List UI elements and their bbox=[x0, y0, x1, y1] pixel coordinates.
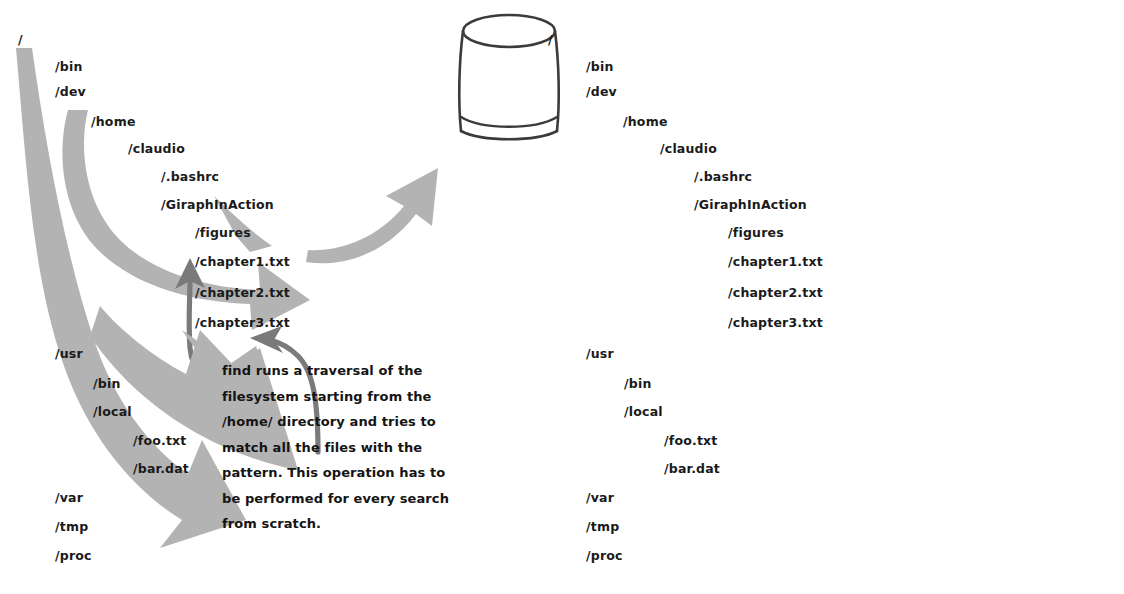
locate-traversal-panel: //bin/dev/home/claudio/.bashrc/GiraphInA… bbox=[540, 0, 1124, 594]
tree-node: /chapter1.txt bbox=[728, 256, 823, 269]
tree-node: /chapter2.txt bbox=[195, 287, 290, 300]
tree-node: /bin bbox=[93, 378, 121, 391]
tree-node: /proc bbox=[55, 550, 92, 563]
tree-node: /local bbox=[93, 406, 132, 419]
tree-node: /foo.txt bbox=[664, 435, 718, 448]
tree-node: /usr bbox=[586, 348, 614, 361]
tree-node: / bbox=[18, 34, 23, 47]
tree-node: /proc bbox=[586, 550, 623, 563]
tree-node: /GiraphInAction bbox=[694, 199, 807, 212]
tree-node: /bar.dat bbox=[133, 463, 189, 476]
tree-node: /bin bbox=[624, 378, 652, 391]
tree-node: /chapter3.txt bbox=[195, 317, 290, 330]
tree-node: /claudio bbox=[660, 143, 717, 156]
tree-node: /foo.txt bbox=[133, 435, 187, 448]
tree-node: /tmp bbox=[55, 521, 88, 534]
tree-node: /var bbox=[586, 492, 614, 505]
figure-canvas: //bin/dev/home/claudio/.bashrc/GiraphInA… bbox=[0, 0, 1124, 594]
tree-node: /chapter2.txt bbox=[728, 287, 823, 300]
tree-node: /dev bbox=[586, 86, 617, 99]
tree-node: /bin bbox=[55, 61, 83, 74]
tree-node: /bar.dat bbox=[664, 463, 720, 476]
tree-node: /figures bbox=[728, 227, 784, 240]
tree-node: /bin bbox=[586, 61, 614, 74]
tree-node: /chapter1.txt bbox=[195, 256, 290, 269]
tree-node: /claudio bbox=[128, 143, 185, 156]
tree-node: /figures bbox=[195, 227, 251, 240]
find-caption: find runs a traversal of the filesystem … bbox=[222, 358, 522, 537]
tree-node: /local bbox=[624, 406, 663, 419]
tree-node: /usr bbox=[55, 348, 83, 361]
tree-node: /home bbox=[91, 116, 136, 129]
tree-node: /tmp bbox=[586, 521, 619, 534]
tree-node: /.bashrc bbox=[694, 171, 752, 184]
tree-node: / bbox=[548, 34, 553, 47]
tree-node: /dev bbox=[55, 86, 86, 99]
tree-node: /var bbox=[55, 492, 83, 505]
tree-node: /chapter3.txt bbox=[728, 317, 823, 330]
database-cylinder-icon bbox=[459, 15, 558, 139]
tree-node: /.bashrc bbox=[161, 171, 219, 184]
tree-node: /GiraphInAction bbox=[161, 199, 274, 212]
tree-node: /home bbox=[623, 116, 668, 129]
